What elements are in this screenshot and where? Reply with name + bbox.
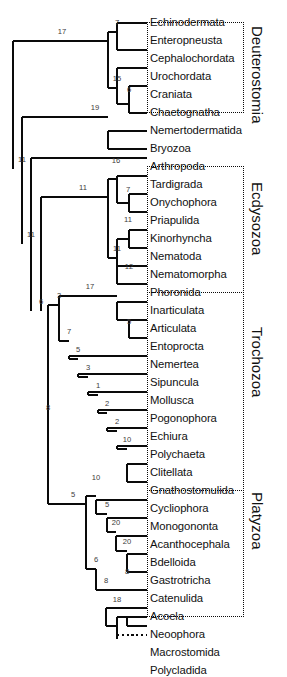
taxon-label: Bryozoa bbox=[150, 143, 191, 154]
node-support-value: 2 bbox=[115, 418, 119, 426]
taxon-label: Polycladida bbox=[150, 665, 207, 676]
taxon-label: Pogonophora bbox=[150, 413, 217, 424]
node-support-value: 20 bbox=[112, 519, 120, 527]
node-support-value: 1 bbox=[96, 382, 100, 390]
taxon-label: Macrostomida bbox=[150, 647, 220, 658]
node-support-value: 5 bbox=[127, 318, 131, 326]
node-support-value: 3 bbox=[86, 364, 90, 372]
node-support-value: 17 bbox=[86, 283, 94, 291]
taxon-label: Kinorhyncha bbox=[150, 233, 212, 244]
clade-label-deuterostomia: Deuterostomia bbox=[250, 26, 265, 124]
clade-label-ecdysozoa: Ecdysozoa bbox=[250, 182, 265, 255]
taxon-label: Tardigrada bbox=[150, 179, 202, 190]
taxon-label: Echiura bbox=[150, 431, 188, 442]
taxon-label: Echinodermata bbox=[150, 17, 225, 28]
taxon-label: Cephalochordata bbox=[150, 53, 235, 64]
taxon-label: Entoprocta bbox=[150, 341, 204, 352]
taxon-label: Catenulida bbox=[150, 593, 203, 604]
node-support-value: 12 bbox=[125, 263, 133, 271]
node-support-value: 7 bbox=[115, 19, 119, 27]
node-support-value: 8 bbox=[46, 404, 50, 412]
node-support-value: 8 bbox=[104, 577, 108, 585]
node-support-value: 7 bbox=[67, 328, 71, 336]
node-support-value: 15 bbox=[113, 75, 121, 83]
node-support-value: 20 bbox=[123, 538, 131, 546]
node-support-value: 2 bbox=[105, 400, 109, 408]
node-support-value: 11 bbox=[79, 184, 87, 192]
clade-label-trochozoa: Trochozoa bbox=[250, 327, 265, 397]
node-support-value: 19 bbox=[91, 104, 99, 112]
taxon-label: Nemertea bbox=[150, 359, 199, 370]
node-support-value: 11 bbox=[18, 156, 26, 164]
taxon-label: Craniata bbox=[150, 89, 192, 100]
taxon-label: Chaetognatha bbox=[150, 107, 220, 118]
taxon-label: Priapulida bbox=[150, 215, 199, 226]
node-support-value: 3 bbox=[57, 292, 61, 300]
taxon-label: Cycliophora bbox=[150, 503, 209, 514]
node-support-value: 11 bbox=[27, 231, 35, 239]
taxon-label: Polychaeta bbox=[150, 449, 205, 460]
clade-label-platyzoa: Platyzoa bbox=[250, 492, 265, 550]
taxon-label: Nemertodermatida bbox=[150, 125, 242, 136]
taxon-label: Gnathostomulida bbox=[150, 485, 234, 496]
taxon-label: Phoronida bbox=[150, 287, 201, 298]
taxon-label: Nematomorpha bbox=[150, 269, 227, 280]
node-support-value: 18 bbox=[113, 596, 121, 604]
node-support-value: 17 bbox=[58, 28, 66, 36]
node-support-value: 6 bbox=[94, 556, 98, 564]
node-support-value: 6 bbox=[39, 298, 43, 306]
taxon-label: Gastrotricha bbox=[150, 575, 210, 586]
taxon-label: Clitellata bbox=[150, 467, 192, 478]
node-support-value: 5 bbox=[76, 346, 80, 354]
taxon-label: Articulata bbox=[150, 323, 196, 334]
taxon-label: Sipuncula bbox=[150, 377, 199, 388]
taxon-label: Mollusca bbox=[150, 395, 194, 406]
taxon-label: Nematoda bbox=[150, 251, 201, 262]
taxon-label: Onychophora bbox=[150, 197, 217, 208]
node-support-value: 10 bbox=[123, 436, 131, 444]
taxon-label: Inarticulata bbox=[150, 305, 204, 316]
taxon-label: Urochordata bbox=[150, 71, 211, 82]
node-support-value: 16 bbox=[112, 157, 120, 165]
node-support-value: 5 bbox=[71, 491, 75, 499]
taxon-label: Enteropneusta bbox=[150, 35, 222, 46]
node-support-value: 7 bbox=[126, 186, 130, 194]
taxon-label: Acoela bbox=[150, 611, 184, 622]
node-support-value: 11 bbox=[113, 245, 121, 253]
node-support-value: 11 bbox=[124, 216, 132, 224]
taxon-label: Bdelloida bbox=[150, 557, 196, 568]
node-support-value: 8 bbox=[125, 568, 129, 576]
taxon-label: Neoophora bbox=[150, 629, 205, 640]
node-support-value: 6 bbox=[127, 86, 131, 94]
node-support-value: 10 bbox=[92, 474, 100, 482]
taxon-label: Arthropoda bbox=[150, 161, 205, 172]
node-support-value: 5 bbox=[105, 501, 109, 509]
taxon-label: Acanthocephala bbox=[150, 539, 230, 550]
taxon-label: Monogononta bbox=[150, 521, 218, 532]
